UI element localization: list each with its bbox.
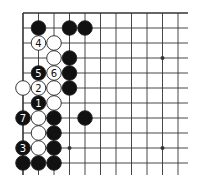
black-stone-disc [47,156,62,171]
black-stone-disc [47,126,62,141]
black-stone [62,66,77,81]
white-stone [47,36,62,51]
black-stone-5: 5 [31,66,46,81]
black-stone [16,156,31,171]
white-stone-disc [31,126,46,141]
star-point [161,146,165,150]
go-board-diagram: 4562173 [0,0,201,181]
white-stone-disc [47,36,62,51]
white-stone-disc [16,81,31,96]
move-number: 5 [35,68,41,79]
black-stone-disc [62,66,77,81]
star-point [161,56,165,60]
white-stone-disc [47,96,62,111]
white-stone [31,141,46,156]
black-stone-disc [62,21,77,36]
black-stone-disc [47,111,62,126]
white-stone-6: 6 [47,66,62,81]
white-stone [16,81,31,96]
black-stone [62,81,77,96]
black-stone-3: 3 [16,141,31,156]
white-stone [47,51,62,66]
black-stone [47,126,62,141]
white-stone [31,126,46,141]
black-stone-disc [62,81,77,96]
white-stone [47,96,62,111]
white-stone-disc [31,141,46,156]
move-number: 3 [20,143,26,154]
black-stone [78,111,93,126]
black-stone [47,111,62,126]
black-stone-1: 1 [31,96,46,111]
move-number: 1 [35,98,41,109]
move-number: 2 [35,83,41,94]
black-stone-disc [31,21,46,36]
black-stone [31,21,46,36]
black-stone-disc [31,156,46,171]
white-stone-disc [31,111,46,126]
move-number: 6 [51,68,57,79]
black-stone-disc [78,111,93,126]
black-stone [62,51,77,66]
white-stone-4: 4 [31,36,46,51]
white-stone-disc [47,81,62,96]
white-stone-disc [47,51,62,66]
black-stone-disc [62,51,77,66]
black-stone-disc [78,21,93,36]
black-stone [47,156,62,171]
white-stone [31,111,46,126]
move-number: 7 [20,113,26,124]
black-stone [62,21,77,36]
black-stone [78,21,93,36]
white-stone-2: 2 [31,81,46,96]
black-stone [47,141,62,156]
star-point [68,146,72,150]
black-stone-disc [16,156,31,171]
move-number: 4 [35,38,41,49]
black-stone-7: 7 [16,111,31,126]
white-stone [47,81,62,96]
black-stone [31,156,46,171]
black-stone-disc [47,141,62,156]
